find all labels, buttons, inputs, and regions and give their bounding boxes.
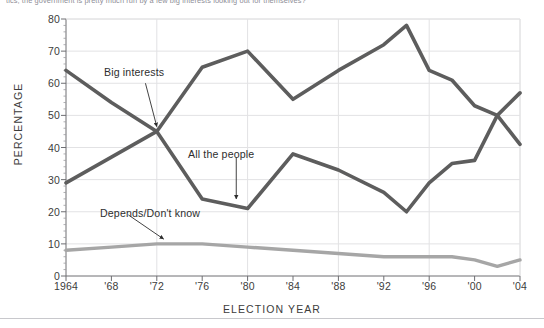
y-tick-label: 70 xyxy=(34,46,60,57)
x-tick-label: '76 xyxy=(195,281,209,292)
y-tick-label: 80 xyxy=(34,14,60,25)
series-line-depends-dont-know xyxy=(66,244,520,266)
x-tick-label: '96 xyxy=(422,281,436,292)
y-axis-tick-labels: 01020304050607080 xyxy=(28,19,60,276)
x-tick-label: '04 xyxy=(513,281,527,292)
x-tick-label: 1964 xyxy=(54,281,78,292)
x-tick-label: '68 xyxy=(104,281,118,292)
x-tick-label: '84 xyxy=(286,281,300,292)
x-axis-title: ELECTION YEAR xyxy=(0,303,544,315)
x-tick-label: '00 xyxy=(467,281,481,292)
annotation-leader-0 xyxy=(145,83,156,126)
y-tick-label: 20 xyxy=(34,207,60,218)
annotation-depends-dont-know: Depends/Don't know xyxy=(100,207,200,219)
axis-ticks xyxy=(61,19,520,281)
data-series xyxy=(66,25,520,266)
y-tick-label: 40 xyxy=(34,143,60,154)
x-tick-label: '72 xyxy=(150,281,164,292)
y-tick-label: 10 xyxy=(34,239,60,250)
series-line-big-interests xyxy=(66,25,520,182)
y-tick-label: 30 xyxy=(34,175,60,186)
line-chart-canvas xyxy=(0,0,544,328)
x-tick-label: '80 xyxy=(240,281,254,292)
y-tick-label: 60 xyxy=(34,78,60,89)
annotation-big-interests: Big interests xyxy=(104,66,164,78)
y-axis-title: PERCENTAGE xyxy=(12,64,24,184)
chart-figure: tics, the government is pretty much run … xyxy=(0,0,544,328)
annotation-all-the-people: All the people xyxy=(188,148,254,160)
x-tick-label: '88 xyxy=(331,281,345,292)
series-line-all-the-people xyxy=(66,70,520,211)
x-tick-label: '92 xyxy=(377,281,391,292)
gridlines xyxy=(66,19,520,276)
footer-divider xyxy=(0,318,544,319)
y-tick-label: 50 xyxy=(34,110,60,121)
x-axis-tick-labels: 1964'68'72'76'80'84'88'92'96'00'04 xyxy=(66,281,520,297)
